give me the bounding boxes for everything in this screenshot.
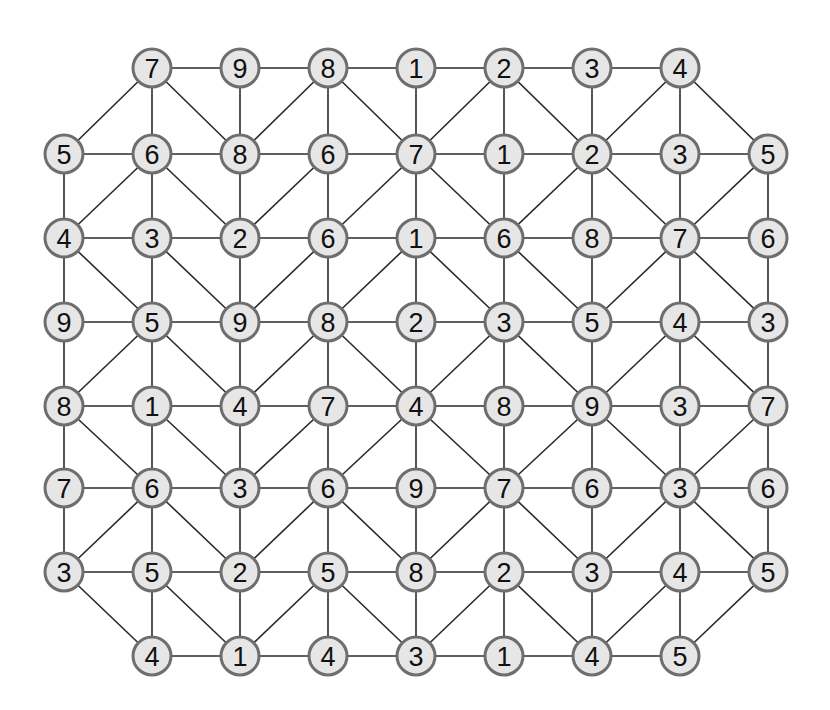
node-number: 3: [408, 642, 423, 672]
node-number: 9: [408, 474, 423, 504]
node-r5-c2: 3: [221, 469, 259, 507]
node-number: 2: [232, 558, 247, 588]
node-number: 5: [760, 558, 775, 588]
node-number: 4: [584, 642, 599, 672]
node-number: 1: [144, 392, 159, 422]
node-r7-c1: 4: [133, 637, 171, 675]
node-r1-c5: 1: [485, 135, 523, 173]
node-number: 2: [496, 558, 511, 588]
node-number: 8: [584, 224, 599, 254]
node-number: 1: [408, 224, 423, 254]
node-number: 5: [584, 308, 599, 338]
node-r2-c0: 4: [45, 219, 83, 257]
node-number: 9: [232, 54, 247, 84]
node-r7-c6: 4: [573, 637, 611, 675]
node-number: 5: [144, 558, 159, 588]
node-r3-c2: 9: [221, 303, 259, 341]
node-number: 7: [408, 140, 423, 170]
node-r5-c8: 6: [749, 469, 787, 507]
node-r3-c8: 3: [749, 303, 787, 341]
node-r4-c8: 7: [749, 387, 787, 425]
node-r1-c6: 2: [573, 135, 611, 173]
node-r4-c1: 1: [133, 387, 171, 425]
node-r0-c4: 1: [397, 49, 435, 87]
node-number: 1: [408, 54, 423, 84]
node-number: 1: [496, 642, 511, 672]
node-number: 3: [144, 224, 159, 254]
node-r3-c1: 5: [133, 303, 171, 341]
node-number: 3: [672, 474, 687, 504]
node-number: 6: [320, 140, 335, 170]
node-r1-c2: 8: [221, 135, 259, 173]
node-number: 6: [144, 140, 159, 170]
node-number: 9: [232, 308, 247, 338]
node-number: 6: [496, 224, 511, 254]
node-r5-c1: 6: [133, 469, 171, 507]
node-r3-c7: 4: [661, 303, 699, 341]
node-number: 5: [760, 140, 775, 170]
node-r2-c6: 8: [573, 219, 611, 257]
node-r1-c4: 7: [397, 135, 435, 173]
node-r5-c0: 7: [45, 469, 83, 507]
node-number: 3: [496, 308, 511, 338]
node-number: 6: [320, 474, 335, 504]
node-r7-c7: 5: [661, 637, 699, 675]
node-number: 3: [672, 392, 687, 422]
node-number: 8: [232, 140, 247, 170]
node-r1-c8: 5: [749, 135, 787, 173]
node-r7-c4: 3: [397, 637, 435, 675]
node-r6-c1: 5: [133, 553, 171, 591]
node-r3-c0: 9: [45, 303, 83, 341]
node-number: 4: [232, 392, 247, 422]
node-number: 2: [408, 308, 423, 338]
node-number: 6: [584, 474, 599, 504]
node-r5-c4: 9: [397, 469, 435, 507]
node-r4-c4: 4: [397, 387, 435, 425]
node-r6-c2: 2: [221, 553, 259, 591]
node-r0-c3: 8: [309, 49, 347, 87]
node-r6-c6: 3: [573, 553, 611, 591]
node-r6-c5: 2: [485, 553, 523, 591]
node-number: 7: [760, 392, 775, 422]
node-r7-c5: 1: [485, 637, 523, 675]
node-number: 2: [584, 140, 599, 170]
node-number: 2: [232, 224, 247, 254]
node-number: 7: [144, 54, 159, 84]
node-number: 4: [56, 224, 71, 254]
node-number: 2: [496, 54, 511, 84]
node-r6-c3: 5: [309, 553, 347, 591]
node-r3-c5: 3: [485, 303, 523, 341]
node-number: 1: [232, 642, 247, 672]
number-graph: 7981234568671235432616876959823543814748…: [0, 0, 830, 710]
node-r2-c5: 6: [485, 219, 523, 257]
node-number: 9: [56, 308, 71, 338]
node-r1-c7: 3: [661, 135, 699, 173]
node-r4-c2: 4: [221, 387, 259, 425]
node-r6-c7: 4: [661, 553, 699, 591]
node-number: 3: [56, 558, 71, 588]
node-r2-c4: 1: [397, 219, 435, 257]
node-r1-c3: 6: [309, 135, 347, 173]
node-r4-c3: 7: [309, 387, 347, 425]
node-r4-c5: 8: [485, 387, 523, 425]
node-number: 3: [584, 558, 599, 588]
node-number: 9: [584, 392, 599, 422]
node-number: 8: [320, 308, 335, 338]
node-number: 8: [56, 392, 71, 422]
node-r3-c4: 2: [397, 303, 435, 341]
node-number: 5: [320, 558, 335, 588]
node-r7-c2: 1: [221, 637, 259, 675]
node-r0-c6: 3: [573, 49, 611, 87]
node-r7-c3: 4: [309, 637, 347, 675]
node-number: 4: [672, 558, 687, 588]
node-number: 4: [672, 308, 687, 338]
node-r5-c3: 6: [309, 469, 347, 507]
node-r1-c0: 5: [45, 135, 83, 173]
node-number: 8: [320, 54, 335, 84]
node-number: 5: [56, 140, 71, 170]
node-number: 7: [672, 224, 687, 254]
node-number: 6: [320, 224, 335, 254]
node-number: 6: [760, 224, 775, 254]
node-number: 3: [760, 308, 775, 338]
node-number: 3: [232, 474, 247, 504]
